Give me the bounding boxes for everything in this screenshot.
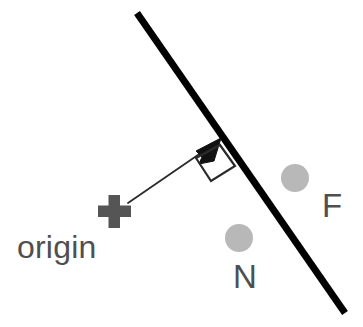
origin-cross-icon [98,195,131,228]
diagram-canvas: origin N F [0,0,363,327]
origin-label: origin [17,231,96,263]
perpendicular-vector-shaft [128,146,211,203]
diagram-vector-layer [0,0,363,327]
near-point-label: N [233,260,257,293]
far-point-label: F [322,189,342,222]
point-f-dot [281,164,309,192]
point-n-dot [225,224,253,252]
